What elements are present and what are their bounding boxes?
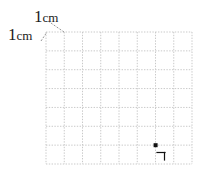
marked-point [154,143,158,147]
label-cell-width-number: 1 [34,7,43,26]
label-cell-width-unit: cm [43,10,59,25]
right-angle-mark [157,153,165,161]
label-cell-width: 1cm [34,8,58,25]
label-cell-height-number: 1 [8,25,17,44]
label-cell-height-unit: cm [17,28,33,43]
label-cell-height: 1cm [8,26,32,43]
figure-canvas: 1cm 1cm [0,0,205,179]
grid-vertical-lines [46,32,192,164]
